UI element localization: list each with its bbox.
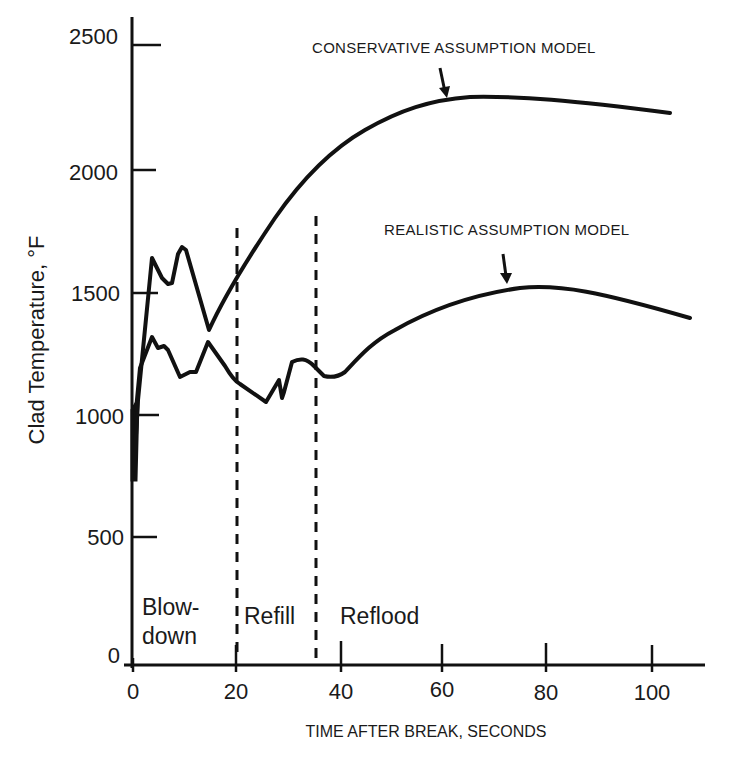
y-tick-label-2000: 2000 <box>69 160 118 185</box>
phase-label-refill: Refill <box>244 603 295 629</box>
y-tick-label-1500: 1500 <box>71 281 120 306</box>
conservative-arrow-icon <box>439 68 450 98</box>
conservative-series-line <box>134 97 670 470</box>
y-tick-label-500: 500 <box>87 525 124 550</box>
realistic-annotation-label: REALISTIC ASSUMPTION MODEL <box>384 221 629 238</box>
x-tick-label-80: 80 <box>534 680 558 705</box>
y-axis-title: Clad Temperature, °F <box>24 236 49 445</box>
conservative-annotation-label: CONSERVATIVE ASSUMPTION MODEL <box>312 39 596 56</box>
phase-label-reflood: Reflood <box>340 603 419 629</box>
x-tick-label-100: 100 <box>634 680 671 705</box>
y-tick-label-2500: 2500 <box>69 24 118 49</box>
y-tick-label-0: 0 <box>108 643 120 668</box>
x-tick-label-0: 0 <box>127 679 139 704</box>
y-tick-label-1000: 1000 <box>75 404 124 429</box>
phase-label-blowdown-1: Blow- <box>142 594 200 620</box>
x-axis-title: TIME AFTER BREAK, SECONDS <box>306 723 547 740</box>
phase-label-blowdown-2: down <box>142 623 197 649</box>
x-tick-label-20: 20 <box>224 679 248 704</box>
x-tick-label-60: 60 <box>430 677 454 702</box>
realistic-arrow-icon <box>500 254 512 284</box>
clad-temperature-chart: 2500 2000 1500 1000 500 0 0 20 40 60 80 … <box>0 0 746 761</box>
x-ticks <box>133 641 652 672</box>
x-tick-label-40: 40 <box>329 679 353 704</box>
